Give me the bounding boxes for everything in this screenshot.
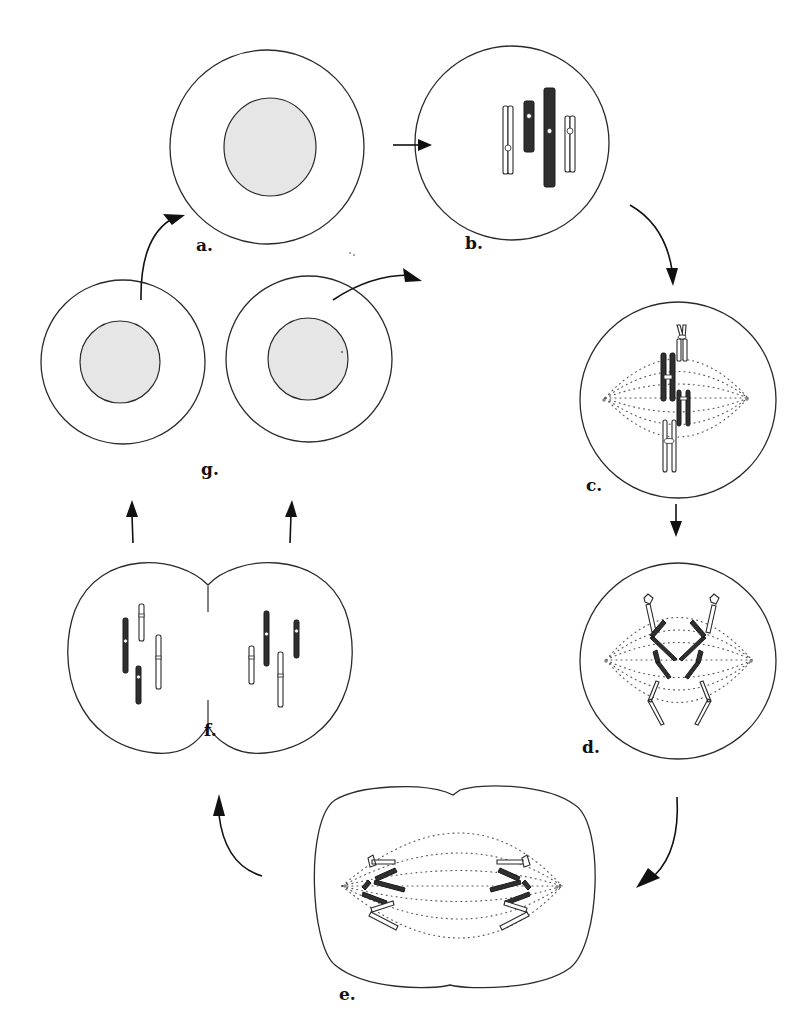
stage-g-cells: g. bbox=[41, 276, 392, 479]
stage-label-g: g. bbox=[201, 459, 219, 479]
stage-label-b: b. bbox=[465, 233, 483, 253]
arrow-f-to-g-right bbox=[285, 500, 297, 543]
chromosome-dark-long bbox=[544, 88, 555, 187]
cell-membrane-dumbbell bbox=[314, 786, 595, 988]
chromosome-dark bbox=[123, 618, 128, 673]
nucleus-right bbox=[268, 318, 348, 400]
stage-e-cell: e. bbox=[314, 786, 595, 1004]
stage-label-e: e. bbox=[339, 984, 356, 1004]
arrow-b-to-c bbox=[630, 205, 678, 286]
stage-f-cell: f. bbox=[68, 563, 352, 754]
speck bbox=[349, 252, 351, 254]
arrow-c-to-d bbox=[670, 504, 682, 537]
chromosome-dark bbox=[294, 620, 299, 658]
nucleus bbox=[224, 98, 316, 196]
arrow-f-to-g-left bbox=[126, 500, 138, 543]
cell-membrane bbox=[580, 563, 776, 759]
chromosome-dark-short bbox=[524, 101, 534, 152]
chromosome-dark bbox=[136, 666, 141, 704]
stage-c-cell: c. bbox=[580, 302, 776, 498]
mitosis-cycle-diagram: a. b. bbox=[0, 0, 812, 1031]
stage-a-cell: a. bbox=[170, 50, 364, 255]
chromosome-light bbox=[278, 652, 283, 707]
nucleus-left bbox=[80, 321, 160, 403]
chromosome-light bbox=[156, 635, 161, 689]
chromosome-dark bbox=[264, 611, 269, 666]
stage-label-c: c. bbox=[586, 475, 602, 495]
stage-label-a: a. bbox=[196, 235, 213, 255]
chromosome-light bbox=[139, 604, 144, 641]
stage-label-d: d. bbox=[582, 737, 600, 757]
arrow-d-to-e bbox=[636, 797, 677, 888]
chromosome-light-short bbox=[565, 116, 575, 172]
arrow-e-to-f bbox=[213, 794, 262, 876]
stage-b-cell: b. bbox=[415, 46, 609, 253]
speck bbox=[341, 351, 343, 353]
stage-d-cell: d. bbox=[580, 563, 776, 759]
chromosome-light-long bbox=[503, 106, 513, 174]
chromosome-light bbox=[249, 646, 254, 684]
speck bbox=[353, 254, 355, 256]
stage-label-f: f. bbox=[204, 720, 217, 740]
